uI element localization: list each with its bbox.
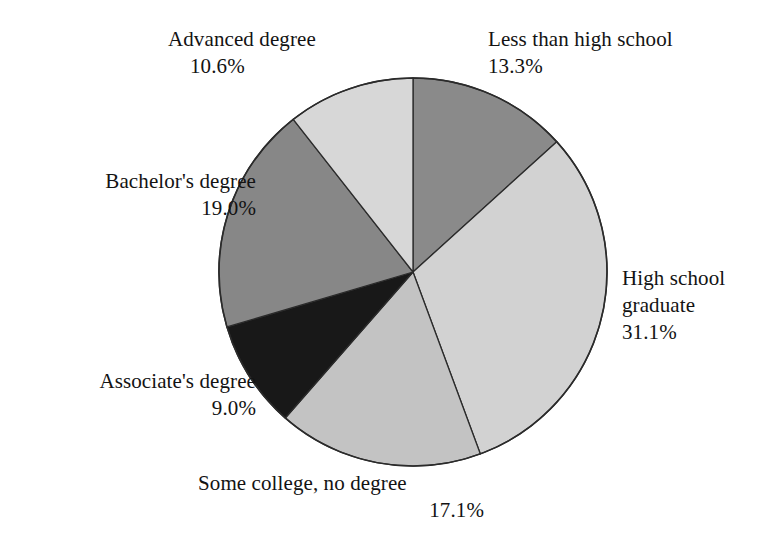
pie-label-some-college: Some college, no degree 17.1% xyxy=(198,470,528,524)
pie-label-some-college-value: 17.1% xyxy=(198,497,528,524)
pie-label-less-than-high-school-value: 13.3% xyxy=(488,53,738,80)
pie-label-bachelors-degree: Bachelor's degree 19.0% xyxy=(30,168,256,222)
pie-label-associates-degree-value: 9.0% xyxy=(22,395,256,422)
pie-label-high-school-graduate-line1: High school xyxy=(622,265,772,292)
pie-label-associates-degree: Associate's degree 9.0% xyxy=(22,368,256,422)
pie-label-bachelors-degree-value: 19.0% xyxy=(30,195,256,222)
pie-label-high-school-graduate: High school graduate 31.1% xyxy=(622,265,772,346)
pie-label-bachelors-degree-name: Bachelor's degree xyxy=(30,168,256,195)
pie-label-some-college-name: Some college, no degree xyxy=(198,470,528,497)
pie-label-high-school-graduate-line2: graduate xyxy=(622,292,772,319)
pie-slice-group xyxy=(219,78,607,466)
pie-chart-figure: Advanced degree 10.6% Less than high sch… xyxy=(0,0,776,548)
pie-label-high-school-graduate-value: 31.1% xyxy=(622,319,772,346)
pie-label-less-than-high-school: Less than high school 13.3% xyxy=(488,26,738,80)
pie-label-less-than-high-school-name: Less than high school xyxy=(488,26,738,53)
pie-label-associates-degree-name: Associate's degree xyxy=(22,368,256,395)
pie-label-advanced-degree-value: 10.6% xyxy=(168,53,398,80)
pie-label-advanced-degree: Advanced degree 10.6% xyxy=(168,26,398,80)
pie-label-advanced-degree-name: Advanced degree xyxy=(168,26,398,53)
